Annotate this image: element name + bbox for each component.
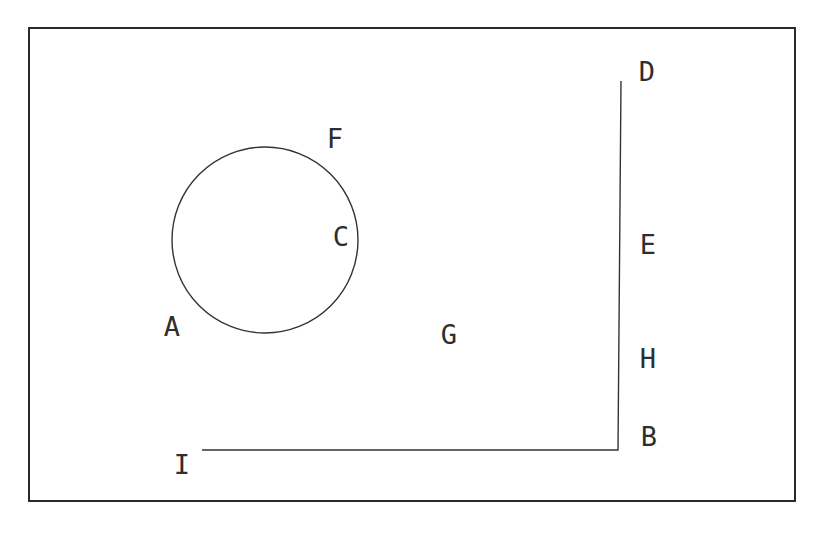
label-G: G bbox=[441, 319, 457, 350]
label-D: D bbox=[639, 56, 655, 87]
l-shaped-line bbox=[202, 81, 621, 450]
diagram-frame bbox=[29, 28, 795, 501]
label-H: H bbox=[640, 343, 656, 374]
label-F: F bbox=[327, 123, 343, 154]
label-C: C bbox=[333, 221, 349, 252]
circle bbox=[172, 147, 358, 333]
geometry-diagram: D F C E A G H B I bbox=[0, 0, 822, 534]
label-E: E bbox=[640, 229, 656, 260]
label-B: B bbox=[641, 421, 657, 452]
label-I: I bbox=[174, 449, 190, 480]
label-A: A bbox=[164, 311, 180, 342]
